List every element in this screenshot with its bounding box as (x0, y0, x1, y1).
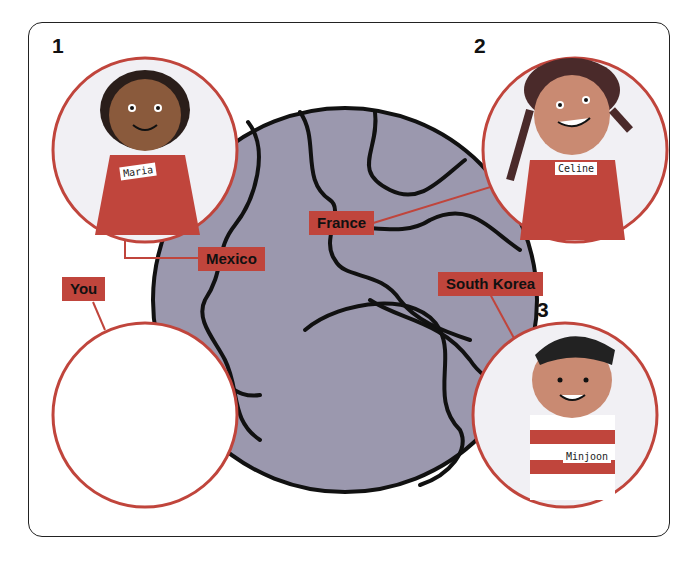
you-portrait-blank (53, 323, 237, 507)
celine-name-tag: Celine (555, 162, 597, 175)
minjoon-figure (530, 336, 615, 500)
number-1: 1 (52, 34, 64, 58)
minjoon-name-tag: Minjoon (563, 450, 611, 463)
number-2: 2 (474, 34, 486, 58)
label-france: France (309, 211, 374, 235)
number-3: 3 (537, 298, 549, 322)
label-south-korea: South Korea (438, 272, 543, 296)
label-mexico: Mexico (198, 247, 265, 271)
label-you: You (62, 277, 105, 301)
